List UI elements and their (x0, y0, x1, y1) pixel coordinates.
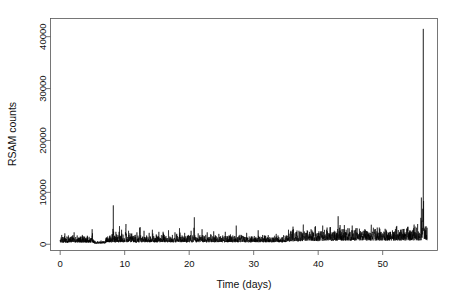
x-tick-label: 20 (184, 258, 195, 269)
y-tick-label: 0 (37, 242, 48, 247)
y-axis-title: RSAM counts (6, 102, 18, 166)
y-tick-label: 40000 (37, 23, 48, 49)
x-tick-label: 0 (58, 258, 63, 269)
x-tick-label: 50 (377, 258, 388, 269)
y-tick-label: 20000 (37, 127, 48, 153)
x-tick-label: 30 (248, 258, 259, 269)
x-tick-label: 10 (119, 258, 130, 269)
y-tick-label: 10000 (37, 179, 48, 205)
chart-figure: 010000200003000040000 01020304050 RSAM c… (0, 0, 453, 302)
x-axis-title: Time (days) (216, 278, 271, 290)
x-tick-label: 40 (313, 258, 324, 269)
y-tick-label: 30000 (37, 75, 48, 101)
rsam-time-series-plot: 010000200003000040000 01020304050 RSAM c… (0, 0, 453, 302)
